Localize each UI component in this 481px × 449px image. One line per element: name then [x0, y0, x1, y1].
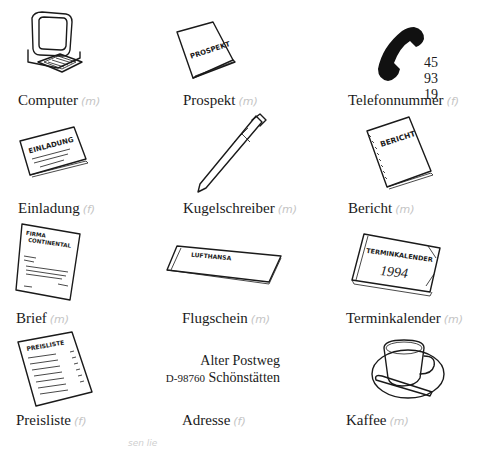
word-label: Flugschein(m): [182, 310, 270, 327]
svg-text:TERMINKALENDER: TERMINKALENDER: [366, 247, 434, 264]
gender-annotation: (f): [233, 415, 245, 428]
word-label: Bericht(m): [348, 200, 414, 217]
address-zip: D-98760: [166, 372, 205, 384]
report-notebook-icon: BERICHT: [365, 115, 437, 190]
gender-annotation: (f): [447, 95, 459, 108]
price-list-icon: PREISLISTE: [16, 330, 94, 408]
gender-annotation: (m): [395, 203, 414, 216]
computer-icon: [20, 10, 90, 80]
address-city-line: D-98760 Schönstätten: [150, 369, 280, 387]
svg-text:PROSPEKT: PROSPEKT: [189, 40, 231, 61]
handwritten-scribble: sen lie: [128, 438, 157, 448]
address-block: Alter Postweg D-98760 Schönstätten: [150, 352, 280, 387]
invitation-card-icon: EINLADUNG: [18, 125, 90, 177]
brochure-icon: PROSPEKT: [175, 20, 250, 80]
flight-ticket-icon: LUFTHANSA: [165, 244, 285, 286]
gender-annotation: (m): [50, 313, 69, 326]
word-label: Terminkalender(m): [346, 310, 463, 327]
word-label: Prospekt(m): [183, 92, 258, 109]
address-city: Schönstätten: [208, 370, 280, 385]
address-street: Alter Postweg: [150, 352, 280, 369]
word-label: Einladung(f): [18, 200, 95, 217]
svg-text:LUFTHANSA: LUFTHANSA: [191, 251, 232, 262]
word-label: Telefonnummer(f): [348, 92, 459, 109]
gender-annotation: (m): [278, 203, 297, 216]
svg-text:EINLADUNG: EINLADUNG: [28, 136, 75, 156]
gender-annotation: (m): [81, 95, 100, 108]
word-label: Brief(m): [16, 310, 69, 327]
svg-text:PREISLISTE: PREISLISTE: [26, 339, 65, 353]
gender-annotation: (m): [239, 95, 258, 108]
svg-text:CONTINENTAL: CONTINENTAL: [28, 237, 72, 249]
telephone-icon: [376, 25, 426, 85]
gender-annotation: (m): [251, 313, 270, 326]
gender-annotation: (f): [83, 203, 95, 216]
letter-icon: FIRMA CONTINENTAL: [14, 222, 82, 302]
svg-text:1994: 1994: [379, 263, 408, 281]
coffee-cup-icon: [370, 338, 446, 400]
word-label: Computer(m): [18, 92, 100, 109]
word-label: Kugelschreiber(m): [183, 200, 297, 217]
gender-annotation: (f): [74, 415, 86, 428]
svg-text:BERICHT: BERICHT: [379, 129, 417, 149]
word-label: Adresse(f): [182, 412, 246, 429]
word-label: Kaffee(m): [346, 412, 409, 429]
gender-annotation: (m): [390, 415, 409, 428]
gender-annotation: (m): [444, 313, 463, 326]
word-label: Preisliste(f): [16, 412, 86, 429]
ballpoint-pen-icon: [190, 112, 270, 194]
appointment-calendar-icon: TERMINKALENDER 1994: [350, 230, 442, 298]
